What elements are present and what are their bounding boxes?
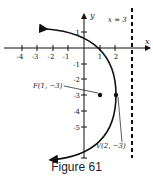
y-tick-label: -4 [73,108,80,116]
vertex-point [114,93,118,97]
x-tick-label: 1 [98,53,102,61]
focus-label: F(1, −3) [32,82,63,90]
directrix-label: x = 3 [108,16,127,24]
x-tick-label: -4 [17,53,24,61]
vertex-label: V(2, −3) [96,142,126,150]
y-tick-label: -3 [73,92,80,100]
focus-point [98,93,102,97]
y-axis-label: y [89,11,95,20]
x-axis-label: x [145,37,150,46]
focus-leader [64,86,98,93]
vertex-leader [118,97,122,142]
x-tick-label: -2 [48,53,55,61]
y-tick-label: -2 [73,76,80,84]
y-tick-label: -1 [73,61,80,69]
x-tick-label: -3 [32,53,39,61]
x-tick-label: -1 [63,53,70,61]
x-tick-label: 2 [114,53,118,61]
parabola-diagram: -4 -3 -2 -1 1 2 1 -1 -2 -3 -4 -5 y x x =… [0,0,153,179]
figure-caption: Figure 61 [0,160,153,174]
y-tick-label: -5 [73,124,80,132]
